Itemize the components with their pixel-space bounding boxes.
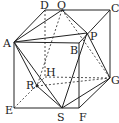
label-P: P	[90, 30, 98, 43]
edge-FG	[79, 78, 110, 108]
edge-QP	[62, 10, 87, 33]
label-R: R	[26, 79, 35, 92]
label-C: C	[111, 2, 119, 15]
edge-AD	[14, 10, 45, 42]
label-F: F	[79, 111, 87, 123]
point-R	[36, 85, 39, 88]
edge-AB	[14, 42, 79, 43]
edge-RS	[37, 86, 62, 108]
label-H: H	[46, 66, 56, 79]
label-E: E	[5, 104, 13, 117]
label-A: A	[2, 37, 12, 50]
label-Q: Q	[57, 0, 66, 12]
label-D: D	[40, 0, 49, 12]
label-S: S	[57, 111, 65, 123]
label-B: B	[70, 44, 78, 57]
cube-diagram: D Q C A B P H R G E S F	[0, 0, 119, 123]
label-G: G	[111, 74, 119, 87]
